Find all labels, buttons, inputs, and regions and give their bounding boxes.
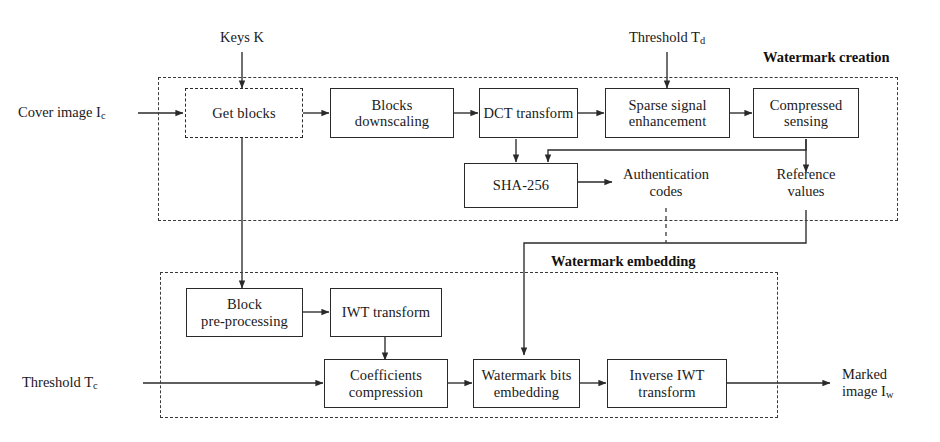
label-authentication-codes: Authenticationcodes [601, 166, 731, 201]
label-threshold-td: Threshold Td [607, 29, 727, 46]
node-iwt-transform[interactable]: IWT transform [330, 288, 442, 337]
node-compressed-sensing-label: Compressedsensing [770, 97, 843, 129]
node-block-preprocessing-label: Blockpre-processing [201, 296, 288, 328]
label-marked-image-text: Markedimage I [842, 366, 887, 399]
node-watermark-bits-embedding-label: Watermark bitsembedding [481, 367, 571, 399]
flowchart-canvas: Watermark creation Watermark embedding G… [0, 0, 940, 442]
node-sha-256-label: SHA-256 [493, 177, 549, 193]
label-threshold-tc: Threshold Tc [22, 374, 147, 391]
label-keys-k: Keys K [192, 29, 292, 46]
label-reference-values: Referencevalues [756, 166, 856, 201]
node-coefficients-compression[interactable]: Coefficientscompression [324, 359, 448, 408]
label-cover-image-subscript: c [101, 110, 106, 121]
node-coefficients-compression-label: Coefficientscompression [349, 367, 423, 399]
group-label-watermark-creation: Watermark creation [760, 49, 893, 66]
node-dct-transform-label: DCT transform [483, 105, 573, 121]
label-cover-image: Cover image Ic [18, 104, 143, 121]
node-blocks-downscaling-label: Blocksdownscaling [355, 97, 429, 129]
node-get-blocks[interactable]: Get blocks [185, 88, 303, 138]
group-label-watermark-embedding: Watermark embedding [548, 253, 699, 270]
node-inverse-iwt-transform[interactable]: Inverse IWTtransform [607, 359, 727, 408]
node-watermark-bits-embedding[interactable]: Watermark bitsembedding [473, 359, 580, 408]
node-blocks-downscaling[interactable]: Blocksdownscaling [330, 88, 454, 138]
node-block-preprocessing[interactable]: Blockpre-processing [186, 288, 303, 337]
label-marked-image: Markedimage Iw [842, 366, 932, 401]
node-sparse-signal-enhancement-label: Sparse signalenhancement [628, 97, 706, 129]
label-threshold-td-subscript: d [700, 35, 705, 46]
node-sha-256[interactable]: SHA-256 [464, 163, 578, 208]
node-sparse-signal-enhancement[interactable]: Sparse signalenhancement [605, 88, 730, 138]
node-iwt-transform-label: IWT transform [342, 304, 430, 320]
label-threshold-tc-subscript: c [93, 380, 98, 391]
node-compressed-sensing[interactable]: Compressedsensing [753, 88, 859, 138]
label-marked-image-subscript: w [886, 390, 894, 401]
node-inverse-iwt-transform-label: Inverse IWTtransform [630, 367, 705, 399]
node-dct-transform[interactable]: DCT transform [479, 88, 578, 138]
node-get-blocks-label: Get blocks [212, 105, 275, 121]
